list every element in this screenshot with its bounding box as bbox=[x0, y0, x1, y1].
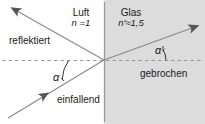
incident-ray bbox=[8, 60, 104, 118]
reflected-ray-arrowhead bbox=[8, 3, 22, 17]
reflected-ray-label: reflektiert bbox=[9, 35, 50, 46]
incident-ray-label: einfallend bbox=[57, 94, 100, 105]
angle-alpha-arc bbox=[62, 61, 68, 80]
angle-alpha-label: α bbox=[53, 71, 59, 83]
refractive-index-glass: n'≈1,5 bbox=[108, 18, 154, 29]
refraction-diagram: Luft n =1 Glas n'≈1,5 reflektiert einfal… bbox=[0, 0, 205, 124]
angle-alpha-prime-label: α′ bbox=[155, 44, 163, 56]
incident-ray-arrowhead bbox=[38, 89, 52, 102]
angle-alpha-tick bbox=[62, 78, 65, 81]
refractive-index-air: n =1 bbox=[62, 18, 100, 29]
medium-label-glass: Glas n'≈1,5 bbox=[108, 7, 154, 29]
refracted-ray-label: gebrochen bbox=[140, 68, 187, 79]
diagram-canvas bbox=[0, 0, 205, 124]
medium-label-air: Luft n =1 bbox=[62, 7, 100, 29]
